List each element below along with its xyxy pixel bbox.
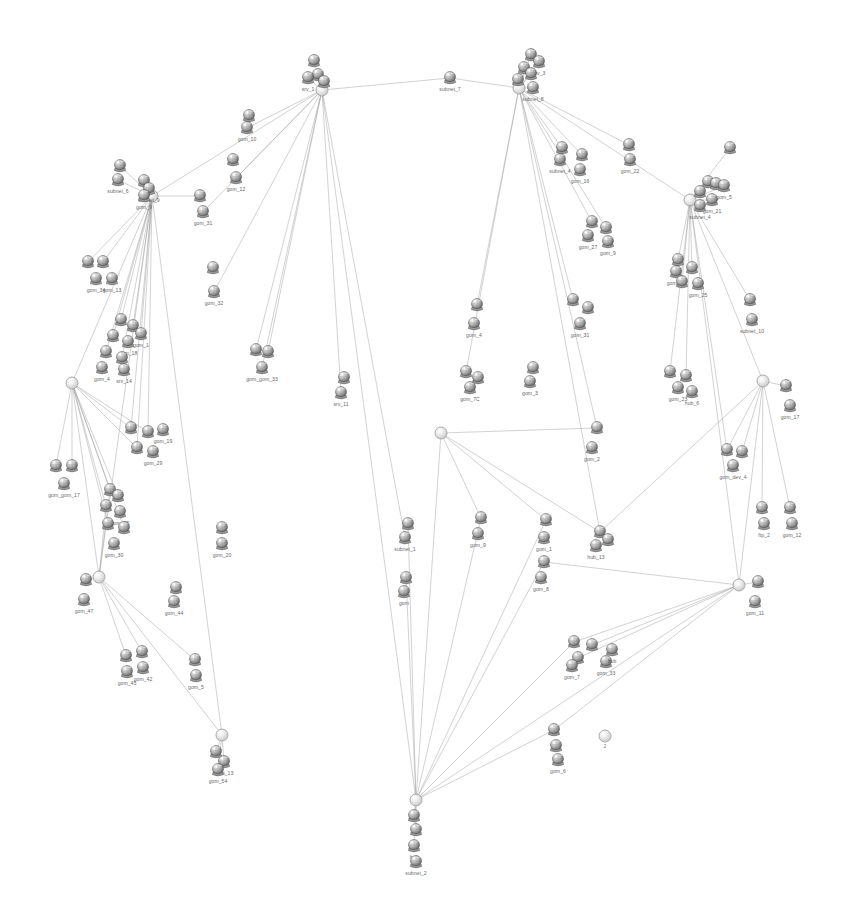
computer-host-icon[interactable] xyxy=(406,839,422,854)
computer-host-icon[interactable] xyxy=(129,441,145,456)
subnet-hub-icon[interactable] xyxy=(599,730,612,743)
computer-host-icon[interactable] xyxy=(134,645,150,660)
computer-host-icon[interactable] xyxy=(116,521,132,536)
computer-host-icon[interactable] xyxy=(254,361,270,376)
computer-host-icon[interactable] xyxy=(306,54,322,69)
computer-host-icon[interactable] xyxy=(598,221,614,236)
computer-host-icon[interactable] xyxy=(684,385,700,400)
computer-host-icon[interactable] xyxy=(228,171,244,186)
computer-host-icon[interactable] xyxy=(604,643,620,658)
computer-host-icon[interactable] xyxy=(622,153,638,168)
computer-host-icon[interactable] xyxy=(210,763,226,778)
computer-host-icon[interactable] xyxy=(78,573,94,588)
computer-host-icon[interactable] xyxy=(684,261,700,276)
computer-host-icon[interactable] xyxy=(533,571,549,586)
computer-host-icon[interactable] xyxy=(566,635,582,650)
computer-host-icon[interactable] xyxy=(260,345,276,360)
computer-host-icon[interactable] xyxy=(538,513,554,528)
computer-host-icon[interactable] xyxy=(123,421,139,436)
computer-host-icon[interactable] xyxy=(396,585,412,600)
computer-host-icon[interactable] xyxy=(584,638,600,653)
computer-host-icon[interactable] xyxy=(754,501,770,516)
computer-host-icon[interactable] xyxy=(719,443,735,458)
computer-host-icon[interactable] xyxy=(536,531,552,546)
subnet-hub-icon[interactable] xyxy=(66,377,79,390)
computer-host-icon[interactable] xyxy=(525,81,541,96)
computer-host-icon[interactable] xyxy=(510,73,526,88)
computer-host-icon[interactable] xyxy=(470,527,486,542)
computer-host-icon[interactable] xyxy=(462,381,478,396)
computer-host-icon[interactable] xyxy=(206,285,222,300)
computer-host-icon[interactable] xyxy=(747,595,763,610)
computer-host-icon[interactable] xyxy=(778,379,794,394)
computer-host-icon[interactable] xyxy=(398,571,414,586)
computer-host-icon[interactable] xyxy=(580,301,596,316)
computer-host-icon[interactable] xyxy=(621,138,637,153)
subnet-hub-icon[interactable] xyxy=(216,729,229,742)
computer-host-icon[interactable] xyxy=(214,537,230,552)
computer-host-icon[interactable] xyxy=(112,159,128,174)
computer-host-icon[interactable] xyxy=(105,329,121,344)
computer-host-icon[interactable] xyxy=(756,517,772,532)
computer-host-icon[interactable] xyxy=(552,153,568,168)
computer-host-icon[interactable] xyxy=(76,593,92,608)
computer-host-icon[interactable] xyxy=(397,531,413,546)
computer-host-icon[interactable] xyxy=(690,277,706,292)
computer-host-icon[interactable] xyxy=(64,459,80,474)
computer-host-icon[interactable] xyxy=(225,153,241,168)
computer-host-icon[interactable] xyxy=(239,121,255,136)
computer-host-icon[interactable] xyxy=(94,361,110,376)
computer-host-icon[interactable] xyxy=(135,661,151,676)
computer-host-icon[interactable] xyxy=(104,272,120,287)
computer-host-icon[interactable] xyxy=(782,399,798,414)
computer-host-icon[interactable] xyxy=(574,148,590,163)
computer-host-icon[interactable] xyxy=(95,255,111,270)
computer-host-icon[interactable] xyxy=(408,823,424,838)
computer-host-icon[interactable] xyxy=(546,723,562,738)
computer-host-icon[interactable] xyxy=(406,809,422,824)
computer-host-icon[interactable] xyxy=(469,298,485,313)
computer-host-icon[interactable] xyxy=(550,753,566,768)
computer-host-icon[interactable] xyxy=(155,423,171,438)
computer-host-icon[interactable] xyxy=(548,739,564,754)
computer-host-icon[interactable] xyxy=(400,517,416,532)
computer-host-icon[interactable] xyxy=(662,365,678,380)
computer-host-icon[interactable] xyxy=(600,533,616,548)
subnet-hub-icon[interactable] xyxy=(733,579,746,592)
computer-host-icon[interactable] xyxy=(316,75,332,90)
subnet-hub-icon[interactable] xyxy=(435,427,448,440)
computer-host-icon[interactable] xyxy=(205,261,221,276)
computer-host-icon[interactable] xyxy=(600,235,616,250)
subnet-hub-icon[interactable] xyxy=(757,375,770,388)
computer-host-icon[interactable] xyxy=(88,272,104,287)
computer-host-icon[interactable] xyxy=(525,361,541,376)
computer-host-icon[interactable] xyxy=(119,665,135,680)
computer-host-icon[interactable] xyxy=(782,501,798,516)
computer-host-icon[interactable] xyxy=(98,345,114,360)
computer-host-icon[interactable] xyxy=(572,317,588,332)
computer-host-icon[interactable] xyxy=(750,575,766,590)
computer-host-icon[interactable] xyxy=(110,173,126,188)
computer-host-icon[interactable] xyxy=(692,199,708,214)
computer-host-icon[interactable] xyxy=(145,445,161,460)
computer-host-icon[interactable] xyxy=(80,255,96,270)
computer-host-icon[interactable] xyxy=(192,189,208,204)
computer-host-icon[interactable] xyxy=(722,141,738,156)
computer-host-icon[interactable] xyxy=(166,595,182,610)
computer-host-icon[interactable] xyxy=(133,327,149,342)
computer-host-icon[interactable] xyxy=(195,205,211,220)
computer-host-icon[interactable] xyxy=(118,649,134,664)
computer-host-icon[interactable] xyxy=(214,521,230,536)
computer-host-icon[interactable] xyxy=(536,555,552,570)
computer-host-icon[interactable] xyxy=(572,163,588,178)
computer-host-icon[interactable] xyxy=(744,313,760,328)
computer-host-icon[interactable] xyxy=(742,293,758,308)
computer-host-icon[interactable] xyxy=(116,363,132,378)
computer-host-icon[interactable] xyxy=(100,517,116,532)
computer-host-icon[interactable] xyxy=(442,71,458,86)
computer-host-icon[interactable] xyxy=(140,425,156,440)
graph-canvas[interactable]: 2srv_1subnet_7srv_3subnet_8gom_10gom_12s… xyxy=(0,0,841,911)
computer-host-icon[interactable] xyxy=(580,229,596,244)
computer-host-icon[interactable] xyxy=(564,659,580,674)
computer-host-icon[interactable] xyxy=(168,581,184,596)
